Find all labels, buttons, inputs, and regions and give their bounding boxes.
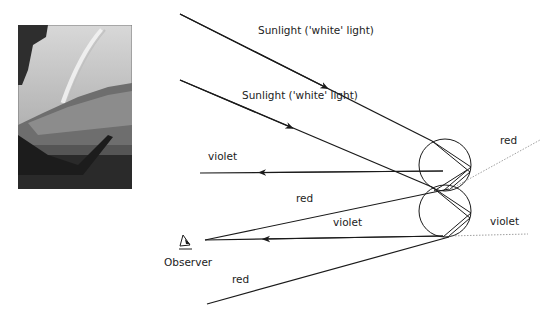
red-ray-lower xyxy=(207,237,449,304)
violet-dotted-extension xyxy=(449,234,528,236)
arrow-icon xyxy=(180,80,290,127)
red-label-right: red xyxy=(500,134,517,146)
red-ray-to-observer xyxy=(205,189,449,240)
observer-label: Observer xyxy=(164,256,212,268)
observer-icon xyxy=(179,235,192,249)
arrow-icon xyxy=(266,236,443,239)
lower-raindrop xyxy=(419,185,471,237)
violet-label-upper: violet xyxy=(208,150,237,162)
red-label-middle: red xyxy=(296,192,313,204)
red-dotted-extension xyxy=(449,140,540,190)
red-label-lower: red xyxy=(232,273,249,285)
violet-label-right: violet xyxy=(490,215,519,227)
sunlight-label-lower: Sunlight ('white' light) xyxy=(242,89,358,101)
sunlight-label-upper: Sunlight ('white' light) xyxy=(258,24,374,36)
arrow-icon xyxy=(262,171,443,173)
upper-raindrop xyxy=(419,139,471,191)
refraction-diagram xyxy=(0,0,548,325)
violet-label-middle: violet xyxy=(333,216,362,228)
